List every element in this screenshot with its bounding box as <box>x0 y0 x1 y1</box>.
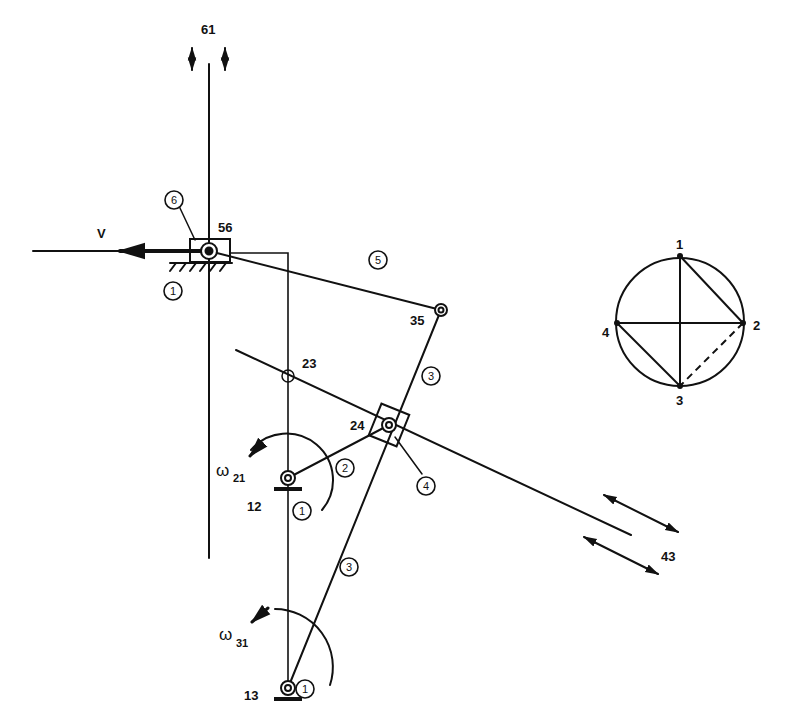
node-1: 1 <box>676 237 683 252</box>
velocity-label: V <box>97 226 106 241</box>
label-56: 56 <box>218 220 232 235</box>
link-number: 1 <box>302 683 308 695</box>
link-number: 3 <box>428 370 434 382</box>
leader-6 <box>179 206 195 240</box>
edge-4-3 <box>617 323 680 386</box>
node-3: 3 <box>676 393 683 408</box>
link-number: 1 <box>299 505 305 517</box>
link-number: 6 <box>171 194 177 206</box>
svg-text:31: 31 <box>236 637 248 649</box>
frame-line <box>230 253 288 688</box>
leader-4 <box>395 437 422 474</box>
instant-center-circle-graph: 1 2 3 4 <box>602 237 760 408</box>
label-23: 23 <box>302 356 316 371</box>
mechanism-diagram: 6 1 5 3 2 4 1 3 1 61 56 35 23 24 12 13 4… <box>0 0 794 720</box>
edge-2-3-dashed <box>680 323 743 386</box>
label-13: 13 <box>244 688 258 703</box>
node-2: 2 <box>753 318 760 333</box>
label-12: 12 <box>247 499 261 514</box>
link-number: 4 <box>423 480 429 492</box>
label-61: 61 <box>201 22 215 37</box>
pin-35 <box>435 304 447 316</box>
svg-text:ω: ω <box>216 461 229 480</box>
label-35: 35 <box>410 313 424 328</box>
omega-21-label: ω 21 <box>216 461 245 484</box>
ground-hatching <box>170 263 232 271</box>
link-number: 2 <box>342 462 348 474</box>
link-number: 3 <box>346 561 352 573</box>
link-number: 1 <box>170 285 176 297</box>
pin-24 <box>382 418 396 432</box>
link-number: 5 <box>375 254 381 266</box>
svg-text:21: 21 <box>233 472 245 484</box>
link-5 <box>209 251 441 310</box>
node-4: 4 <box>602 325 610 340</box>
pin-56 <box>201 243 217 259</box>
svg-text:ω: ω <box>219 625 232 644</box>
omega-31-arrowhead <box>252 608 268 622</box>
omega-31-label: ω 31 <box>219 625 248 649</box>
label-43: 43 <box>661 549 675 564</box>
label-24: 24 <box>350 418 365 433</box>
